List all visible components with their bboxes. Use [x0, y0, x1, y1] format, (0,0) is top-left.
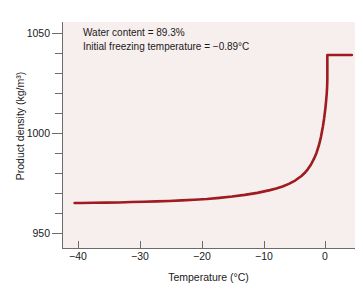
chart-figure: 1050 1000 950 −40 −30 −20 −10 0 Product …	[0, 0, 363, 299]
y-tick-950	[52, 233, 62, 234]
x-tick-label-0: 0	[305, 251, 345, 262]
y-tick-minor-980	[55, 173, 62, 174]
y-tick-1050	[52, 33, 62, 34]
y-tick-label-1000: 1000	[27, 128, 50, 139]
y-tick-minor-1010	[55, 113, 62, 114]
y-tick-label-1050: 1050	[27, 28, 50, 39]
y-tick-minor-1020	[55, 93, 62, 94]
y-tick-1000	[52, 133, 62, 134]
x-tick-0	[325, 241, 326, 248]
x-tick-n20	[202, 241, 203, 248]
y-tick-minor-990	[55, 153, 62, 154]
y-tick-minor-970	[55, 193, 62, 194]
x-tick-n10	[264, 241, 265, 248]
x-tick-n40	[78, 241, 79, 248]
y-tick-minor-1040	[55, 53, 62, 54]
density-curve	[62, 22, 355, 248]
annotation-line-freezing-temp: Initial freezing temperature = −0.89°C	[83, 40, 249, 54]
chart-annotation: Water content = 89.3% Initial freezing t…	[83, 26, 249, 54]
x-tick-label-n10: −10	[244, 251, 284, 262]
x-tick-n30	[140, 241, 141, 248]
y-axis-title: Product density (kg/m³)	[14, 26, 26, 226]
y-tick-minor-1030	[55, 73, 62, 74]
x-tick-label-n40: −40	[58, 251, 98, 262]
x-tick-label-n30: −30	[120, 251, 160, 262]
annotation-line-water-content: Water content = 89.3%	[83, 26, 249, 40]
x-axis-title: Temperature (°C)	[62, 271, 355, 283]
x-axis-line	[62, 248, 355, 249]
x-tick-label-n20: −20	[182, 251, 222, 262]
y-tick-minor-960	[55, 213, 62, 214]
y-tick-label-950: 950	[32, 228, 50, 239]
curve-path	[75, 55, 352, 203]
y-axis-line	[62, 22, 63, 248]
